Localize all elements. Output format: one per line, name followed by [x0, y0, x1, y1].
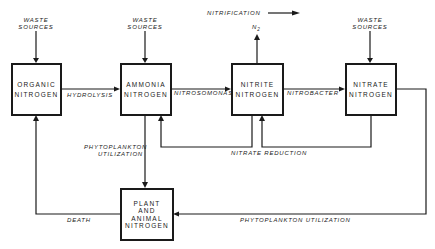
box-label: AND — [138, 207, 155, 215]
connector-lines — [0, 0, 435, 249]
nitrite-nitrogen-box: NITRITE NITROGEN — [231, 63, 284, 116]
phyto-label-line: UTILIZATION — [84, 151, 143, 158]
phytoplankton-utilization-label: PHYTOPLANKTON UTILIZATION — [84, 144, 143, 158]
waste-label-line: SOURCES — [127, 24, 163, 31]
waste-sources-label-nitrate: WASTE SOURCES — [352, 17, 388, 31]
box-label: NITROGEN — [349, 90, 393, 100]
box-label: NITRATE — [353, 80, 389, 90]
death-label: DEATH — [67, 217, 91, 224]
box-label: ANIMAL — [131, 215, 162, 223]
box-label: NITROGEN — [124, 90, 168, 100]
box-label: NITROGEN — [15, 90, 59, 100]
nitrate-reduction-label: NITRATE REDUCTION — [231, 150, 307, 157]
nitrate-to-nitrite-reduction-line — [262, 115, 371, 147]
arrowhead-icon — [292, 11, 300, 16]
waste-label-line: WASTE — [127, 17, 163, 24]
arrowhead-icon — [254, 34, 260, 40]
organic-nitrogen-box: ORGANIC NITROGEN — [11, 63, 62, 116]
nitrosomonas-label: NITROSOMONAS — [174, 90, 233, 97]
waste-label-line: WASTE — [18, 17, 54, 24]
phyto-label-line: PHYTOPLANKTON — [84, 144, 143, 151]
waste-sources-label-ammonia: WASTE SOURCES — [127, 17, 163, 31]
nitrite-to-ammonia-reduction-line — [161, 115, 252, 147]
waste-label-line: WASTE — [352, 17, 388, 24]
box-label: NITROGEN — [125, 222, 169, 230]
plant-animal-nitrogen-box: PLANT AND ANIMAL NITROGEN — [120, 188, 174, 241]
hydrolysis-label: HYDROLYSIS — [67, 92, 113, 99]
ammonia-nitrogen-box: AMMONIA NITROGEN — [120, 63, 172, 116]
waste-label-line: SOURCES — [352, 24, 388, 31]
box-label: NITROGEN — [236, 90, 280, 100]
nitrate-nitrogen-box: NITRATE NITROGEN — [345, 63, 397, 116]
death-line — [36, 119, 120, 214]
nitrification-label: NITRIFICATION — [207, 10, 261, 17]
nitrobacter-label: NITROBACTER — [287, 90, 339, 97]
n2-subscript: 2 — [257, 27, 260, 32]
box-label: NITRITE — [241, 80, 275, 90]
box-label: ORGANIC — [17, 80, 56, 90]
box-label: AMMONIA — [126, 80, 165, 90]
phytoplankton-utilization-long-label: PHYTOPLANKTON UTILIZATION — [240, 217, 351, 224]
waste-sources-label-organic: WASTE SOURCES — [18, 17, 54, 31]
n2-label: N2 — [252, 24, 260, 33]
box-label: PLANT — [134, 200, 161, 208]
waste-label-line: SOURCES — [18, 24, 54, 31]
